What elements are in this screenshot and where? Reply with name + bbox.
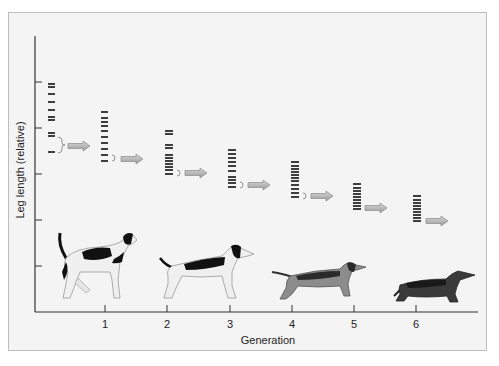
population-bars-gen5: [353, 184, 361, 209]
selection-diagram: [0, 0, 499, 366]
arrow-icon: [68, 141, 90, 151]
population-bars-gen2: [165, 131, 173, 174]
population-bars-gen0: [48, 84, 55, 152]
population-bars-gen4: [291, 162, 299, 197]
arrow-icon: [311, 191, 333, 201]
arrow-icon: [248, 180, 270, 190]
x-tick-label: 5: [351, 318, 357, 330]
arrow-icon: [365, 203, 387, 213]
arrow-icon: [426, 216, 448, 226]
x-tick-label: 1: [102, 318, 108, 330]
x-axis: [35, 305, 478, 312]
selection-bracket-gen4: [303, 193, 306, 199]
x-tick-label: 2: [164, 318, 170, 330]
selection-bracket-gen3: [240, 182, 243, 188]
y-axis: [35, 36, 42, 312]
selection-bracket-gen0: [58, 137, 65, 153]
dog-illustration-gen3: [272, 262, 366, 299]
arrow-icon: [121, 154, 143, 164]
selection-bracket-gen1: [112, 155, 115, 161]
x-tick-label: 6: [413, 318, 419, 330]
x-axis-label: Generation: [241, 334, 295, 346]
dog-illustration-gen2: [160, 245, 254, 298]
x-tick-label: 4: [289, 318, 295, 330]
selection-bracket-gen2: [177, 170, 180, 176]
dog-illustration-gen1: [60, 233, 137, 298]
population-bars-gen6: [413, 196, 421, 221]
arrow-icon: [185, 168, 207, 178]
y-axis-label: Leg length (relative): [14, 121, 26, 218]
x-tick-label: 3: [227, 318, 233, 330]
population-bars-gen1: [101, 112, 108, 161]
population-bars-gen3: [228, 150, 236, 187]
dog-illustration-gen4: [394, 271, 475, 302]
